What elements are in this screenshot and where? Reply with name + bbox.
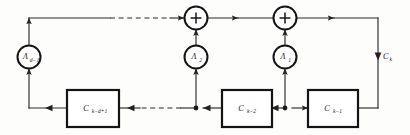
adder-right[interactable]	[274, 7, 297, 30]
delay-box-c-k-1[interactable]: C k−1	[308, 90, 358, 127]
bottom-arrow-after-dashed	[127, 105, 135, 111]
delay-box-c-k-d-plus-1-subscript: k−d+1	[92, 108, 108, 114]
output-label-subscript: k	[390, 56, 393, 62]
adder-left[interactable]	[185, 7, 208, 30]
multiplier-lambda-2[interactable]: Λ 2	[185, 46, 208, 69]
delay-box-c-k-1-subscript: k−1	[333, 108, 342, 114]
multiplier-lambda-1[interactable]: Λ 1	[274, 46, 297, 69]
junction-c-k-1-tap	[283, 106, 288, 111]
diagram-canvas: Λ d−1 Λ 2 Λ 1 C k−d+1 C k−2 C k−1	[0, 0, 410, 135]
multiplier-lambda-1-subscript: 1	[288, 57, 291, 63]
multiplier-lambda-d-minus-1-base: Λ	[22, 52, 28, 61]
multiplier-lambda-2-base: Λ	[191, 52, 197, 61]
multiplier-lambda-1-base: Λ	[280, 52, 286, 61]
junction-c-k-2-tap	[194, 106, 199, 111]
delay-box-c-k-d-plus-1[interactable]: C k−d+1	[67, 90, 119, 127]
delay-box-c-k-2[interactable]: C k−2	[222, 90, 272, 127]
signal-flow-diagram: Λ d−1 Λ 2 Λ 1 C k−d+1 C k−2 C k−1	[0, 0, 410, 135]
output-label-base: C	[383, 52, 389, 61]
bottom-arrow-into-left-riser	[45, 105, 53, 111]
delay-box-c-k-2-subscript: k−2	[247, 108, 256, 114]
output-label-c-k: C k	[383, 52, 393, 62]
output-tap-arrowhead	[375, 53, 382, 61]
delay-box-c-k-1-base: C	[324, 104, 330, 113]
delay-box-c-k-2-base: C	[238, 104, 244, 113]
multiplier-lambda-d-minus-1-subscript: d−1	[30, 57, 40, 63]
bottom-arrow-toward-junction-196	[203, 105, 211, 111]
multiplier-lambda-d-minus-1[interactable]: Λ d−1	[18, 46, 41, 69]
multiplier-lambda-2-subscript: 2	[199, 57, 202, 63]
delay-box-c-k-d-plus-1-base: C	[83, 104, 89, 113]
